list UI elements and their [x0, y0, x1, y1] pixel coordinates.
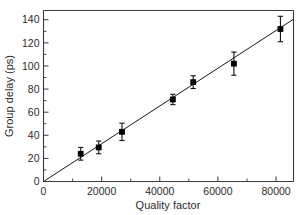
data-marker-square — [119, 129, 125, 135]
data-marker-square — [78, 151, 84, 157]
x-axis-title: Quality factor — [136, 199, 201, 211]
x-tick-label: 20000 — [87, 185, 116, 197]
data-marker-square — [96, 145, 102, 151]
figure-container: 020406080100120140 020000400006000080000… — [0, 0, 300, 215]
x-tick-label: 80000 — [261, 185, 290, 197]
plot-background — [0, 0, 300, 215]
data-marker-square — [231, 61, 237, 67]
x-tick-label: 40000 — [145, 185, 174, 197]
data-marker-square — [278, 26, 284, 32]
data-marker-square — [170, 97, 176, 103]
data-marker-square — [190, 79, 196, 85]
group-delay-vs-quality-factor-chart: 020406080100120140 020000400006000080000… — [0, 0, 300, 215]
y-tick-label: 140 — [22, 13, 40, 25]
x-tick-label: 0 — [41, 185, 47, 197]
x-tick-label: 60000 — [203, 185, 232, 197]
y-tick-label: 100 — [22, 60, 40, 72]
y-tick-label: 60 — [28, 106, 40, 118]
y-axis-title: Group delay (ps) — [3, 55, 15, 137]
y-tick-label: 40 — [28, 129, 40, 141]
y-tick-label: 20 — [28, 152, 40, 164]
y-tick-label: 0 — [34, 175, 40, 187]
y-tick-label: 120 — [22, 37, 40, 49]
y-tick-label: 80 — [28, 83, 40, 95]
